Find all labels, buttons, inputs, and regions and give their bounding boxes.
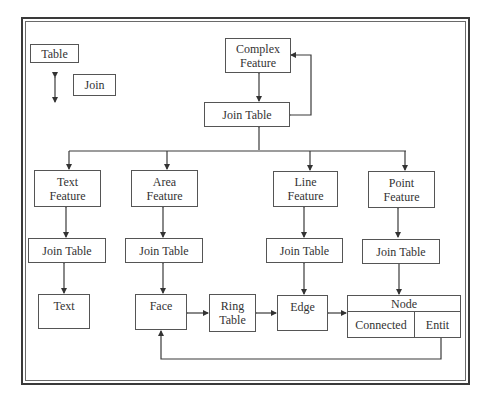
ring-table-box: Ring Table xyxy=(209,294,256,332)
line-feature-line2: Feature xyxy=(288,189,324,203)
node-header-label: Node xyxy=(391,297,417,311)
text-label: Text xyxy=(39,299,89,313)
face-label: Face xyxy=(136,299,186,313)
area-feature-box: Area Feature xyxy=(131,170,198,207)
line-feature-line1: Line xyxy=(295,175,317,189)
join-table-area-box: Join Table xyxy=(125,238,203,263)
legend-table-box: Table xyxy=(30,44,79,63)
ring-table-line1: Ring xyxy=(221,299,244,313)
join-table-area-label: Join Table xyxy=(139,244,188,258)
legend-join-box: Join xyxy=(73,74,116,96)
legend-table-label: Table xyxy=(41,47,67,61)
ring-table-line2: Table xyxy=(219,313,245,327)
text-box: Text xyxy=(38,294,90,329)
point-feature-line1: Point xyxy=(389,176,414,190)
edge-label: Edge xyxy=(278,300,327,314)
join-table-top-box: Join Table xyxy=(204,102,290,127)
complex-feature-line1: Complex xyxy=(236,42,280,56)
join-table-top-label: Join Table xyxy=(222,108,271,122)
line-feature-box: Line Feature xyxy=(273,171,338,207)
join-table-text-box: Join Table xyxy=(28,238,106,263)
text-feature-box: Text Feature xyxy=(34,170,101,207)
node-connected-label: Connected xyxy=(355,318,406,332)
node-header-box: Node xyxy=(347,295,461,312)
point-feature-box: Point Feature xyxy=(368,171,435,208)
face-box: Face xyxy=(135,294,187,330)
area-feature-line1: Area xyxy=(153,175,176,189)
area-feature-line2: Feature xyxy=(147,189,183,203)
point-feature-line2: Feature xyxy=(384,190,420,204)
node-entit-label: Entit xyxy=(426,318,449,332)
join-table-line-box: Join Table xyxy=(266,238,343,263)
complex-feature-line2: Feature xyxy=(240,56,276,70)
complex-feature-box: Complex Feature xyxy=(225,38,291,73)
text-feature-line2: Feature xyxy=(50,189,86,203)
node-entit-cell: Entit xyxy=(414,311,461,338)
join-table-text-label: Join Table xyxy=(42,244,91,258)
node-connected-cell: Connected xyxy=(347,311,415,338)
join-table-point-box: Join Table xyxy=(362,239,440,264)
join-table-line-label: Join Table xyxy=(280,244,329,258)
edge-box: Edge xyxy=(277,295,328,331)
text-feature-line1: Text xyxy=(57,175,78,189)
legend-join-label: Join xyxy=(84,78,104,92)
join-table-point-label: Join Table xyxy=(376,245,425,259)
